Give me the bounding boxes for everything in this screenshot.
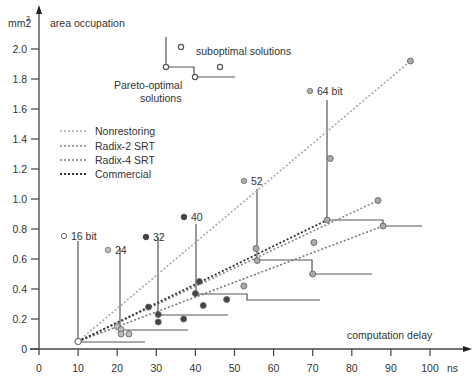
data-point	[155, 319, 161, 325]
y-tick-label: 0.2	[12, 313, 27, 325]
x-tick-label: 60	[268, 362, 280, 374]
label-64bit: 64 bit	[317, 85, 343, 97]
y-tick-label: 0.8	[12, 223, 27, 235]
label-52: 52	[251, 175, 263, 187]
x-tick-label: 90	[385, 362, 397, 374]
data-point	[200, 303, 206, 309]
x-tick-label: 100	[421, 362, 439, 374]
pareto-chart: 00.20.40.60.81.01.21.41.61.82.0 01020304…	[0, 0, 474, 385]
data-point	[196, 279, 202, 285]
data-point	[324, 217, 330, 223]
y-tick-label: 1.8	[12, 73, 27, 85]
legend-radix2: Radix-2 SRT	[95, 140, 155, 152]
legend-commercial: Commercial	[95, 168, 151, 180]
y-tick-label: 0	[21, 343, 27, 355]
data-point	[126, 331, 132, 337]
x-tick-label: 40	[190, 362, 202, 374]
suboptimal-label: suboptimal solutions	[196, 45, 291, 57]
pareto-label-2: solutions	[140, 92, 181, 104]
inset-legend	[163, 37, 235, 80]
label-16bit: 16 bit	[71, 230, 97, 242]
x-tick-label: 80	[346, 362, 358, 374]
data-point	[241, 283, 247, 289]
series-lines	[78, 61, 410, 342]
y-tick-label: 1.0	[12, 193, 27, 205]
y-ticks: 00.20.40.60.81.01.21.41.61.82.0	[12, 43, 39, 355]
data-point	[181, 316, 187, 322]
x-tick-label: 50	[229, 362, 241, 374]
x-unit-label: ns	[447, 362, 458, 374]
data-point	[380, 223, 386, 229]
series-legend: Nonrestoring Radix-2 SRT Radix-4 SRT Com…	[60, 125, 155, 180]
y-tick-label: 0.6	[12, 253, 27, 265]
y-tick-label: 0.4	[12, 283, 27, 295]
data-point	[145, 304, 151, 310]
data-point	[75, 339, 81, 345]
label-32: 32	[153, 231, 165, 243]
y-tick-label: 1.2	[12, 163, 27, 175]
pareto-label-1: Pareto-optimal	[114, 79, 182, 91]
data-point	[310, 271, 316, 277]
x-tick-label: 70	[307, 362, 319, 374]
x-tick-label: 30	[150, 362, 162, 374]
data-point	[118, 331, 124, 337]
data-point	[253, 246, 259, 252]
x-tick-label: 20	[111, 362, 123, 374]
x-axis	[30, 346, 472, 352]
data-point	[327, 156, 333, 162]
y-unit-sup: 2	[26, 15, 30, 22]
legend-nonrestoring: Nonrestoring	[95, 125, 155, 137]
x-axis-label: computation delay	[347, 329, 433, 341]
y-tick-label: 2.0	[12, 43, 27, 55]
legend-radix4: Radix-4 SRT	[95, 154, 155, 166]
data-point	[192, 291, 198, 297]
y-tick-label: 1.4	[12, 133, 27, 145]
y-axis-label: area occupation	[50, 17, 125, 29]
data-point	[311, 240, 317, 246]
data-point	[375, 198, 381, 204]
data-point	[407, 58, 413, 64]
x-tick-label: 0	[36, 362, 42, 374]
trend-line-nonrestoring	[78, 61, 410, 342]
y-tick-label: 1.6	[12, 103, 27, 115]
y-axis	[36, 5, 42, 355]
data-point	[254, 258, 260, 264]
data-point	[155, 312, 161, 318]
x-ticks: 0102030405060708090100	[36, 349, 439, 374]
data-point	[224, 297, 230, 303]
label-40: 40	[191, 211, 203, 223]
label-24: 24	[115, 244, 127, 256]
x-tick-label: 10	[72, 362, 84, 374]
